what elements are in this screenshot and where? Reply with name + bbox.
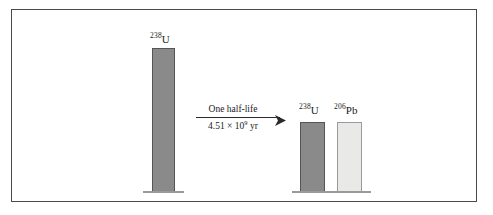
label-uranium-238-half: 238U <box>299 105 319 116</box>
element-symbol-pb: Pb <box>346 104 358 116</box>
element-symbol-u-full: U <box>162 33 170 45</box>
mass-number-238-full: 238 <box>150 31 162 40</box>
baseline-right <box>292 191 371 193</box>
half-life-units: yr <box>248 121 258 131</box>
arrow-label-one-half-life: One half-life <box>195 105 271 115</box>
half-life-arrow-group: One half-life 4.51 × 109 yr <box>195 102 287 142</box>
baseline-left <box>143 191 184 193</box>
bar-uranium-238-full <box>152 48 175 192</box>
mass-number-238-half: 238 <box>299 102 311 111</box>
half-life-coefficient: 4.51 × 10 <box>208 121 244 131</box>
arrow-shaft <box>196 117 280 118</box>
bar-uranium-238-half <box>300 122 325 192</box>
mass-number-206: 206 <box>334 102 346 111</box>
figure-frame: 238U One half-life 4.51 × 109 yr 238U 20… <box>11 9 477 202</box>
label-uranium-238-full: 238U <box>150 34 170 45</box>
element-symbol-u-half: U <box>311 104 319 116</box>
arrow-head-icon <box>275 112 287 130</box>
label-lead-206: 206Pb <box>334 105 358 116</box>
arrow-label-half-life-value: 4.51 × 109 yr <box>195 122 271 132</box>
decay-diagram-figure: 238U One half-life 4.51 × 109 yr 238U 20… <box>0 0 493 215</box>
bar-lead-206 <box>337 122 362 192</box>
